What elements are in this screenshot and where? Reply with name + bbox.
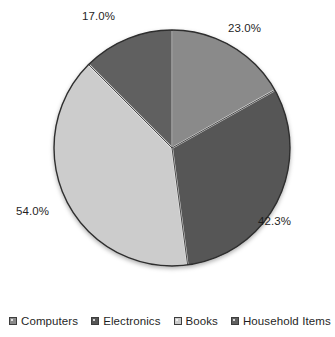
pie-slice-percentage: 54.0%: [16, 205, 49, 217]
legend-swatch-icon: [231, 317, 239, 325]
legend-item[interactable]: Electronics: [91, 315, 160, 327]
legend-item-label: Household Items: [243, 315, 331, 327]
pie-chart: 23.0%42.3%54.0%17.0% ComputersElectronic…: [0, 0, 335, 337]
legend-swatch-icon: [9, 317, 17, 325]
legend-swatch-icon: [91, 317, 99, 325]
pie-slice-percentage: 23.0%: [228, 22, 261, 34]
pie-slices-group: [54, 30, 290, 266]
legend-item-label: Books: [186, 315, 218, 327]
legend-item[interactable]: Books: [174, 315, 218, 327]
pie-slice-percentage: 17.0%: [82, 10, 115, 22]
legend-item[interactable]: Household Items: [231, 315, 331, 327]
legend-item-label: Computers: [21, 315, 78, 327]
pie-slice-percentage: 42.3%: [258, 215, 291, 227]
pie-plot-area: 23.0%42.3%54.0%17.0%: [0, 0, 335, 300]
legend-item-label: Electronics: [103, 315, 160, 327]
legend-swatch-icon: [174, 317, 182, 325]
legend-item[interactable]: Computers: [9, 315, 78, 327]
chart-legend: ComputersElectronicsBooksHousehold Items: [0, 310, 335, 332]
pie-graphic: [0, 0, 335, 300]
